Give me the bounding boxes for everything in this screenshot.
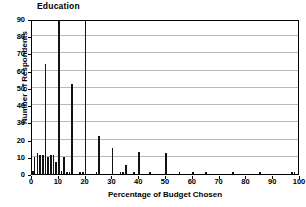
- bar: [192, 172, 194, 174]
- bar: [47, 157, 49, 174]
- bar: [71, 84, 73, 174]
- bar: [125, 165, 127, 174]
- bar: [133, 172, 135, 174]
- plot-area: [31, 20, 299, 175]
- bar: [53, 155, 55, 174]
- y-tick-label: 40: [17, 102, 25, 110]
- bar: [165, 153, 167, 174]
- bar: [79, 172, 81, 174]
- y-tick-label: 10: [17, 154, 25, 162]
- bar: [37, 153, 39, 174]
- y-tick-label: 30: [17, 119, 25, 127]
- x-tick-mark: [219, 176, 220, 179]
- bar: [112, 148, 114, 174]
- x-tick-label: 100: [293, 178, 306, 186]
- bar: [149, 172, 151, 174]
- bar: [96, 172, 98, 174]
- x-tick-label: 60: [188, 178, 196, 186]
- bar: [291, 172, 293, 174]
- bar: [98, 136, 100, 174]
- gridline: [32, 52, 298, 53]
- histogram-figure: Education Number of Respondents 01020304…: [0, 0, 306, 207]
- bar: [259, 172, 261, 174]
- bar: [138, 152, 140, 174]
- x-tick-label: 10: [54, 178, 62, 186]
- x-tick-label: 40: [134, 178, 142, 186]
- x-tick-label: 90: [268, 178, 276, 186]
- x-tick-label: 50: [161, 178, 169, 186]
- bar: [85, 20, 87, 174]
- y-tick-label: 20: [17, 137, 25, 145]
- x-tick-label: 80: [241, 178, 249, 186]
- gridline: [32, 70, 298, 71]
- x-tick-label: 20: [80, 178, 88, 186]
- x-tick-mark: [165, 176, 166, 179]
- chart-title: Education: [37, 1, 80, 11]
- bar: [39, 155, 41, 174]
- bar: [179, 172, 181, 174]
- x-tick-mark: [192, 176, 193, 179]
- x-tick-mark: [31, 176, 32, 179]
- x-tick-mark: [85, 176, 86, 179]
- x-tick-mark: [58, 176, 59, 179]
- y-tick-label: 60: [17, 68, 25, 76]
- bar: [42, 155, 44, 174]
- bar: [120, 172, 122, 174]
- bar: [82, 172, 84, 174]
- bar: [205, 172, 207, 174]
- bar: [58, 20, 60, 174]
- y-tick-label: 90: [17, 16, 25, 24]
- x-tick-label: 0: [29, 178, 33, 186]
- y-tick-label: 50: [17, 85, 25, 93]
- x-tick-mark: [245, 176, 246, 179]
- bar: [34, 157, 36, 174]
- bar: [61, 171, 63, 174]
- x-tick-mark: [272, 176, 273, 179]
- bar: [294, 172, 296, 174]
- gridline: [32, 35, 298, 36]
- x-axis-tick-labels: 0102030405060708090100: [31, 176, 299, 188]
- bar: [69, 172, 71, 174]
- bar: [298, 172, 299, 174]
- bar: [232, 172, 234, 174]
- bar: [66, 172, 68, 174]
- bar: [50, 155, 52, 174]
- x-tick-label: 70: [214, 178, 222, 186]
- x-tick-mark: [138, 176, 139, 179]
- y-tick-label: 70: [17, 50, 25, 58]
- bar: [63, 157, 65, 174]
- y-tick-label: 80: [17, 33, 25, 41]
- bar: [55, 162, 57, 174]
- x-axis-label: Percentage of Budget Chosen: [31, 190, 299, 199]
- x-tick-mark: [299, 176, 300, 179]
- y-axis-tick-labels: 0102030405060708090: [0, 20, 28, 175]
- x-tick-mark: [111, 176, 112, 179]
- x-tick-label: 30: [107, 178, 115, 186]
- y-tick-label: 0: [21, 171, 25, 179]
- bar: [45, 64, 47, 174]
- bar: [122, 172, 124, 174]
